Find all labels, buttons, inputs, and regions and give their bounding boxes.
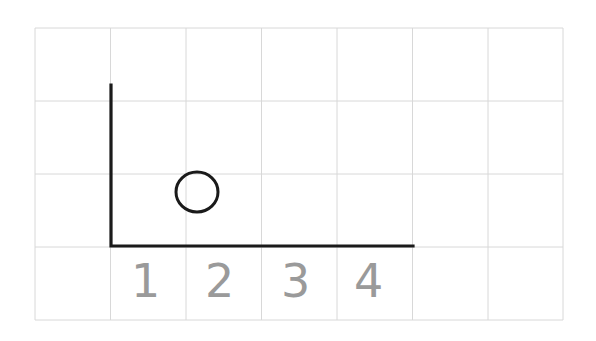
unit-label-3: 3 xyxy=(281,258,310,304)
figure-canvas: 1234 xyxy=(0,0,596,341)
unit-label-4: 4 xyxy=(354,258,383,304)
unit-label-2: 2 xyxy=(205,258,234,304)
unit-label-1: 1 xyxy=(131,258,160,304)
